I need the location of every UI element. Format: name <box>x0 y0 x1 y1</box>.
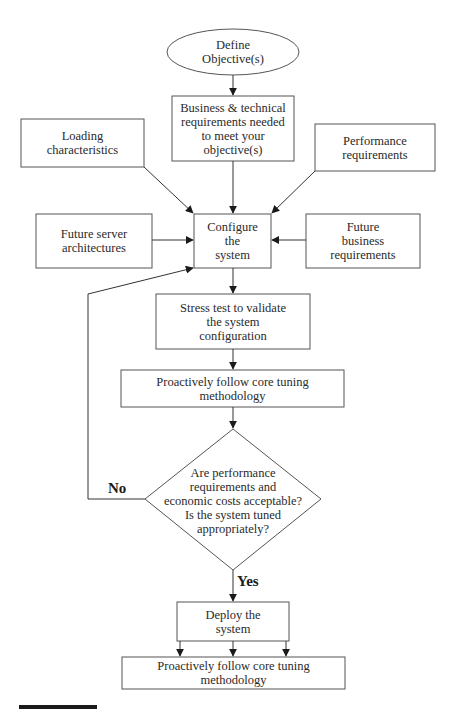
configure-system-node: Configurethesystem <box>194 214 271 268</box>
business-requirements-node: Business & technicalrequirements neededt… <box>172 96 294 161</box>
no-label: No <box>108 480 126 497</box>
footnote-rule <box>19 705 97 709</box>
deploy-node: Deploy thesystem <box>177 602 289 641</box>
yes-label: Yes <box>237 573 259 590</box>
edge-loading-to-configure <box>144 167 193 213</box>
tuning-1-node: Proactively follow core tuningmethodolog… <box>121 370 344 407</box>
decision-node: Are performancerequirements andeconomic … <box>160 466 306 536</box>
future-business-node: Futurebusinessrequirements <box>306 214 420 268</box>
performance-requirements-node: Performancerequirements <box>315 124 435 171</box>
tuning-2-node: Proactively follow core tuningmethodolog… <box>122 657 345 689</box>
edge-performance-to-configure <box>272 171 315 213</box>
loading-characteristics-node: Loadingcharacteristics <box>21 119 144 167</box>
stress-test-node: Stress test to validatethe systemconfigu… <box>156 294 310 349</box>
future-server-node: Future serverarchitectures <box>36 214 152 268</box>
define-objectives-node: DefineObjective(s) <box>170 32 296 72</box>
